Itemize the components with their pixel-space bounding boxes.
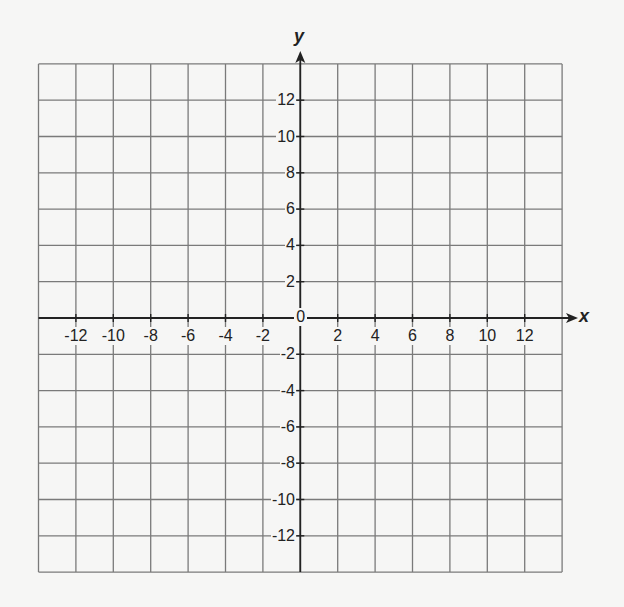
y-tick-label: 10 — [276, 128, 296, 146]
coordinate-plane — [0, 0, 624, 607]
x-tick-label: 8 — [444, 327, 455, 345]
x-tick-label: -10 — [101, 327, 126, 345]
y-tick-label: 4 — [285, 236, 296, 254]
x-tick-label: 6 — [407, 327, 418, 345]
y-tick-label: -8 — [280, 454, 296, 472]
y-tick-label: 6 — [285, 200, 296, 218]
y-tick-label: -12 — [271, 527, 296, 545]
y-tick-label: -4 — [280, 382, 296, 400]
x-tick-label: -6 — [180, 327, 196, 345]
y-axis-label: y — [294, 26, 304, 47]
y-tick-label: -6 — [280, 418, 296, 436]
x-tick-label: 12 — [515, 327, 535, 345]
y-tick-label: 2 — [285, 273, 296, 291]
x-tick-label: 2 — [332, 327, 343, 345]
x-tick-label: 4 — [370, 327, 381, 345]
y-tick-label: 8 — [285, 164, 296, 182]
x-tick-label: -2 — [255, 327, 271, 345]
origin-label: 0 — [294, 308, 307, 326]
y-tick-label: -2 — [280, 345, 296, 363]
axes — [39, 51, 579, 572]
x-tick-label: -8 — [143, 327, 159, 345]
x-tick-label: 10 — [477, 327, 497, 345]
x-tick-label: -4 — [217, 327, 233, 345]
x-tick-label: -12 — [63, 327, 88, 345]
y-tick-label: -10 — [271, 491, 296, 509]
y-tick-label: 12 — [276, 91, 296, 109]
x-axis-label: x — [579, 306, 589, 327]
